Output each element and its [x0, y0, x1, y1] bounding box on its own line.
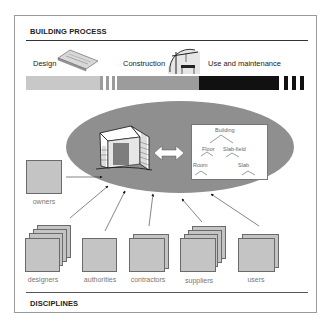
owners-card [26, 160, 62, 194]
suppliers-card [180, 238, 216, 272]
suppliers-label: suppliers [176, 277, 222, 284]
designers-card [25, 238, 60, 272]
owners-label: owners [26, 198, 62, 205]
authorities-label: authorities [76, 276, 124, 283]
users-label: users [236, 276, 276, 283]
designers-label: designers [20, 276, 66, 283]
contractors-card [129, 238, 165, 272]
users-card [238, 238, 275, 272]
footer-rule [26, 292, 308, 293]
contractors-label: contractors [124, 276, 172, 283]
section-title-disciplines: DISCIPLINES [30, 299, 78, 308]
authorities-card [82, 238, 117, 272]
